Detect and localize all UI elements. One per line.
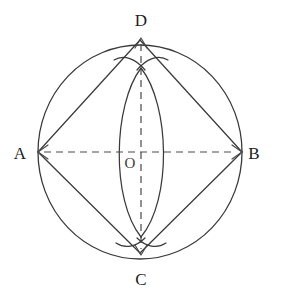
vertex-label-a: A [14, 144, 27, 163]
segment-bc [140, 152, 242, 253]
vertex-label-c: C [135, 270, 146, 289]
geometry-canvas: A B D C O [0, 0, 282, 298]
vertex-label-b: B [248, 144, 259, 163]
geometry-figure: A B D C O [0, 0, 282, 298]
vertex-label-d: D [135, 11, 147, 30]
center-label-o: O [125, 155, 136, 171]
